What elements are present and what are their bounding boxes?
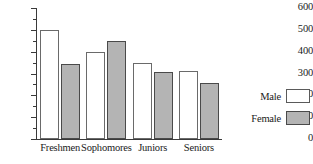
bar-seniors-male bbox=[179, 71, 198, 139]
y-axis-tick-minor bbox=[33, 106, 36, 107]
category-label-seniors: Seniors bbox=[168, 142, 230, 154]
legend-item-male: Male bbox=[240, 88, 312, 110]
y-axis-tick-minor bbox=[33, 63, 36, 64]
y-axis-tick-minor bbox=[33, 128, 36, 129]
y-axis-tick-minor bbox=[33, 19, 36, 20]
x-axis-line bbox=[36, 139, 222, 140]
legend-item-female: Female bbox=[240, 110, 312, 132]
y-axis-tick-label: 400 bbox=[285, 46, 313, 56]
y-axis-tick-major bbox=[31, 139, 36, 140]
y-axis-tick-label: 300 bbox=[285, 68, 313, 78]
y-axis-tick-label: 500 bbox=[285, 24, 313, 34]
chart-legend: MaleFemale bbox=[240, 88, 312, 132]
bar-chart: 6005004003002001000 FreshmenSophomoresJu… bbox=[0, 0, 313, 164]
y-axis-tick-major bbox=[31, 8, 36, 9]
legend-label-male: Male bbox=[240, 91, 281, 103]
bar-juniors-female bbox=[154, 72, 173, 139]
bar-sophomores-female bbox=[107, 41, 126, 139]
y-axis-tick-label: 600 bbox=[285, 2, 313, 12]
legend-swatch-male bbox=[286, 89, 310, 103]
legend-label-female: Female bbox=[240, 113, 281, 125]
bar-sophomores-male bbox=[86, 52, 105, 139]
bar-freshmen-male bbox=[40, 30, 59, 139]
y-axis-tick-major bbox=[31, 74, 36, 75]
y-axis-tick-minor bbox=[33, 84, 36, 85]
bars-layer bbox=[37, 8, 222, 139]
y-axis-tick-major bbox=[31, 30, 36, 31]
bar-seniors-female bbox=[200, 83, 219, 139]
bar-juniors-male bbox=[133, 63, 152, 139]
y-axis-tick-label: 0 bbox=[285, 133, 313, 143]
y-axis-tick-major bbox=[31, 117, 36, 118]
y-axis-tick-major bbox=[31, 52, 36, 53]
bar-freshmen-female bbox=[61, 64, 80, 139]
y-axis-tick-minor bbox=[33, 41, 36, 42]
legend-swatch-female bbox=[286, 111, 310, 125]
y-axis-tick-major bbox=[31, 95, 36, 96]
